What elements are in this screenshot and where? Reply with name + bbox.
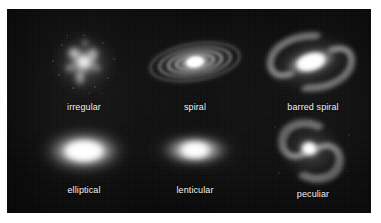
galaxy-label-peculiar: peculiar [261, 189, 365, 200]
galaxy-label-elliptical: elliptical [29, 185, 139, 196]
galaxy-cell-elliptical: elliptical [29, 119, 139, 197]
galaxy-cell-spiral: spiral [137, 23, 253, 115]
galaxy-cell-barred-spiral: barred spiral [255, 23, 371, 115]
spiral-galaxy-image [137, 23, 253, 101]
elliptical-galaxy-image [29, 119, 139, 183]
galaxy-label-lenticular: lenticular [137, 185, 253, 196]
galaxy-label-irregular: irregular [29, 102, 139, 113]
galaxy-cell-peculiar: peculiar [261, 115, 365, 197]
barred-spiral-galaxy-image [255, 23, 371, 101]
lenticular-galaxy-image [137, 119, 253, 183]
galaxy-label-spiral: spiral [137, 102, 253, 113]
galaxy-morphology-figure: irregular [7, 9, 371, 213]
galaxy-cell-irregular: irregular [29, 23, 139, 115]
irregular-galaxy-image [29, 23, 139, 101]
galaxy-label-barred-spiral: barred spiral [255, 102, 371, 113]
galaxy-cell-lenticular: lenticular [137, 119, 253, 197]
peculiar-galaxy-image [261, 115, 365, 187]
